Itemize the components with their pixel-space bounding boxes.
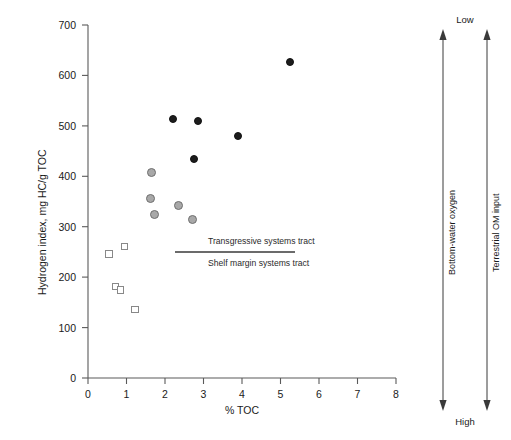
annotation-shelf-margin-systems-tract: Shelf margin systems tract xyxy=(208,258,309,268)
y-tick-label-0: 0 xyxy=(48,372,76,384)
data-point-open-squares xyxy=(117,286,125,294)
data-point-open-squares xyxy=(105,250,113,258)
y-tick-label-500: 500 xyxy=(48,120,76,132)
data-point-gray-circles xyxy=(150,210,159,219)
x-tick-label-8: 8 xyxy=(393,388,399,400)
y-axis-title: Hydrogen index, mg HC/g TOC xyxy=(36,149,48,295)
data-point-gray-circles xyxy=(147,168,156,177)
x-tick-label-4: 4 xyxy=(239,388,245,400)
terrestrial-om-input-arrow-head-down xyxy=(483,400,490,411)
y-tick-label-200: 200 xyxy=(48,271,76,283)
scatter-plot-figure: 0 100 200 300 400 500 600 700 0 1 2 3 4 … xyxy=(0,0,511,440)
side-label-terrestrial-om-input: Terrestrial OM input xyxy=(491,193,501,272)
y-tick-label-100: 100 xyxy=(48,322,76,334)
y-tick-label-600: 600 xyxy=(48,69,76,81)
terrestrial-om-input-arrow-head-up xyxy=(483,29,490,40)
data-point-open-squares xyxy=(121,243,129,251)
data-point-open-squares xyxy=(131,306,139,314)
plot-axes-svg xyxy=(0,0,511,440)
y-tick-label-400: 400 xyxy=(48,170,76,182)
x-tick-marks xyxy=(88,378,396,384)
x-tick-label-3: 3 xyxy=(201,388,207,400)
side-top-label-low: Low xyxy=(456,14,473,25)
x-tick-label-7: 7 xyxy=(355,388,361,400)
bottom-water-oxygen-arrow-head-up xyxy=(439,29,446,40)
side-bottom-label-high: High xyxy=(455,416,475,427)
data-point-filled-black-circles xyxy=(190,155,198,163)
data-point-filled-black-circles xyxy=(194,117,202,125)
x-tick-label-0: 0 xyxy=(85,388,91,400)
side-label-bottom-water-oxygen: Bottom-water oxygen xyxy=(447,190,457,275)
data-point-gray-circles xyxy=(188,215,197,224)
data-point-gray-circles xyxy=(174,201,183,210)
y-tick-label-700: 700 xyxy=(48,19,76,31)
x-tick-label-2: 2 xyxy=(162,388,168,400)
data-point-filled-black-circles xyxy=(169,115,177,123)
y-tick-marks xyxy=(82,25,88,378)
bottom-water-oxygen-arrow-head-down xyxy=(439,400,446,411)
y-tick-label-300: 300 xyxy=(48,221,76,233)
x-tick-label-5: 5 xyxy=(278,388,284,400)
x-axis-title: % TOC xyxy=(225,404,259,416)
annotation-transgressive-systems-tract: Transgressive systems tract xyxy=(208,236,315,246)
x-tick-label-1: 1 xyxy=(124,388,130,400)
data-point-filled-black-circles xyxy=(286,58,294,66)
x-tick-label-6: 6 xyxy=(316,388,322,400)
